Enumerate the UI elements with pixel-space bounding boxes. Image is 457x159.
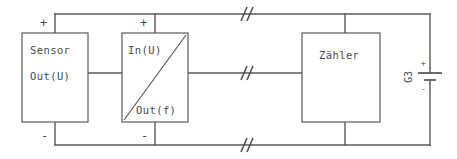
- source-plus-sign: +: [421, 59, 426, 68]
- sensor-minus-sign: -: [41, 129, 48, 143]
- converter-label-output: Out(f): [136, 104, 176, 116]
- converter-label-input: In(U): [128, 44, 162, 56]
- source-minus-sign: -: [421, 85, 426, 94]
- sensor-label-output: Out(U): [30, 70, 70, 82]
- block-counter[interactable]: [302, 33, 380, 122]
- source-designator-label: G3: [403, 71, 414, 83]
- converter-plus-sign: +: [140, 16, 147, 30]
- circuit-schematic-canvas: Sensor Out(U) In(U) Out(f) Zähler + - + …: [0, 0, 457, 159]
- converter-minus-sign: -: [141, 129, 148, 143]
- sensor-label-title: Sensor: [30, 44, 70, 56]
- sensor-plus-sign: +: [40, 16, 47, 30]
- circuit-diagram: Sensor Out(U) In(U) Out(f) Zähler + - + …: [0, 0, 457, 159]
- counter-label-title: Zähler: [319, 49, 359, 61]
